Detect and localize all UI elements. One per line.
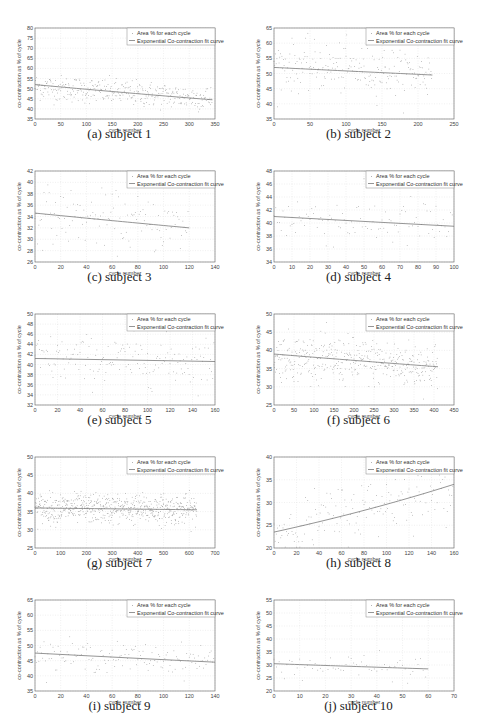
data-point	[288, 81, 289, 82]
data-point	[297, 668, 298, 669]
data-point	[416, 217, 417, 218]
data-point	[322, 220, 323, 221]
data-point	[136, 91, 137, 92]
data-point	[140, 508, 141, 509]
data-point	[54, 518, 55, 519]
data-point	[115, 95, 116, 96]
data-point	[103, 515, 104, 516]
data-point	[303, 351, 304, 352]
data-point	[130, 247, 131, 248]
data-point	[414, 498, 415, 499]
data-point	[104, 245, 105, 246]
data-point	[94, 88, 95, 89]
data-point	[276, 534, 277, 535]
data-point	[120, 351, 121, 352]
data-point	[61, 376, 62, 377]
data-point	[71, 663, 72, 664]
data-point	[104, 496, 105, 497]
data-point	[415, 369, 416, 370]
data-point	[166, 331, 167, 332]
data-point	[84, 83, 85, 84]
data-point	[36, 89, 37, 90]
data-point	[180, 95, 181, 96]
y-axis-label: co-contraction as % of cycle	[16, 611, 22, 679]
data-point	[134, 507, 135, 508]
data-point	[42, 523, 43, 524]
data-point	[385, 212, 386, 213]
data-point	[320, 331, 321, 332]
data-point	[335, 669, 336, 670]
data-point	[374, 206, 375, 207]
data-point	[212, 378, 213, 379]
data-point	[85, 669, 86, 670]
data-point	[189, 99, 190, 100]
data-point	[104, 660, 105, 661]
data-point	[165, 517, 166, 518]
data-point	[36, 345, 37, 346]
data-point	[111, 520, 112, 521]
data-point	[109, 363, 110, 364]
data-point	[192, 510, 193, 511]
data-point	[36, 77, 37, 78]
data-point	[449, 495, 450, 496]
data-point	[70, 510, 71, 511]
data-point	[374, 59, 375, 60]
data-point	[185, 363, 186, 364]
y-tick-label: 80	[27, 25, 33, 31]
data-point	[112, 515, 113, 516]
data-point	[54, 519, 55, 520]
data-point	[55, 527, 56, 528]
y-tick-label: 25	[266, 402, 272, 408]
data-point	[102, 498, 103, 499]
data-point	[60, 518, 61, 519]
data-point	[75, 94, 76, 95]
data-point	[155, 499, 156, 500]
data-point	[349, 369, 350, 370]
data-point	[192, 519, 193, 520]
data-point	[416, 367, 417, 368]
data-point	[421, 67, 422, 68]
data-point	[198, 103, 199, 104]
data-point	[169, 89, 170, 90]
data-point	[314, 368, 315, 369]
data-point	[106, 372, 107, 373]
data-point	[344, 356, 345, 357]
data-point	[328, 355, 329, 356]
data-point	[50, 80, 51, 81]
data-point	[45, 516, 46, 517]
data-point	[169, 517, 170, 518]
data-point	[37, 529, 38, 530]
data-point	[393, 357, 394, 358]
data-point	[431, 78, 432, 79]
data-point	[193, 90, 194, 91]
data-point	[90, 522, 91, 523]
data-point	[139, 214, 140, 215]
data-point	[299, 357, 300, 358]
data-point	[174, 514, 175, 515]
data-point	[192, 348, 193, 349]
y-tick-label: 48	[27, 321, 33, 327]
data-point	[389, 365, 390, 366]
data-point	[311, 373, 312, 374]
data-point	[385, 511, 386, 512]
data-point	[362, 342, 363, 343]
data-point	[386, 353, 387, 354]
data-point	[152, 510, 153, 511]
data-point	[38, 86, 39, 87]
legend-label-fit: Exponential Co-contraction fit curve	[376, 610, 463, 616]
data-point	[299, 352, 300, 353]
data-point	[121, 233, 122, 234]
data-point	[46, 682, 47, 683]
y-axis-label: co-contraction as % of cycle	[255, 39, 261, 107]
data-point	[365, 366, 366, 367]
data-point	[361, 67, 362, 68]
data-point	[84, 505, 85, 506]
data-point	[304, 534, 305, 535]
data-point	[322, 364, 323, 365]
data-point	[54, 511, 55, 512]
legend: Area % for each cycleExponential Co-cont…	[127, 28, 224, 45]
data-point	[171, 93, 172, 94]
data-point	[144, 103, 145, 104]
data-point	[359, 357, 360, 358]
data-point	[367, 490, 368, 491]
